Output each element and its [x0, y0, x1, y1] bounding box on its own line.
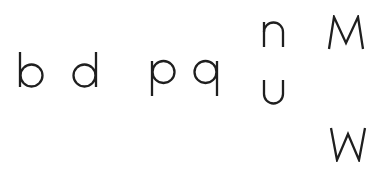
- letter-q: q: [192, 59, 220, 101]
- letter-n: n: [262, 21, 286, 53]
- letter-b: b: [18, 51, 46, 93]
- letter-p: p: [150, 59, 178, 101]
- letter-u: u: [262, 79, 286, 111]
- letter-d: d: [71, 51, 99, 93]
- letter-M: M: [327, 15, 367, 55]
- letter-W: W: [329, 126, 369, 166]
